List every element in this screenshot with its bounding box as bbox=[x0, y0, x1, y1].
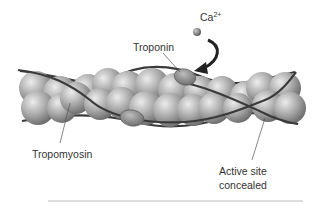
actin-beads bbox=[19, 68, 306, 127]
troponin-label: Troponin bbox=[133, 41, 174, 53]
calcium-ion bbox=[193, 28, 201, 36]
calcium-label: Ca bbox=[200, 11, 214, 23]
active-site-leader-line bbox=[252, 118, 265, 160]
tropomyosin-label: Tropomyosin bbox=[32, 148, 92, 160]
arrow-head-icon bbox=[194, 62, 208, 74]
calcium-charge: 2+ bbox=[213, 11, 221, 18]
svg-text:Ca2+: Ca2+ bbox=[200, 11, 221, 23]
active-site-label-line1: Active site bbox=[219, 165, 267, 177]
active-site-label-line2: concealed bbox=[219, 179, 267, 191]
actin-filament-diagram: Ca2+ Troponin Tropomyosin Active site co… bbox=[0, 0, 321, 206]
